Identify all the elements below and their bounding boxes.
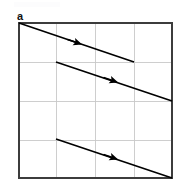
plot-canvas	[0, 0, 177, 188]
plot-background	[19, 23, 172, 178]
figure-panel-a: a	[0, 0, 177, 188]
